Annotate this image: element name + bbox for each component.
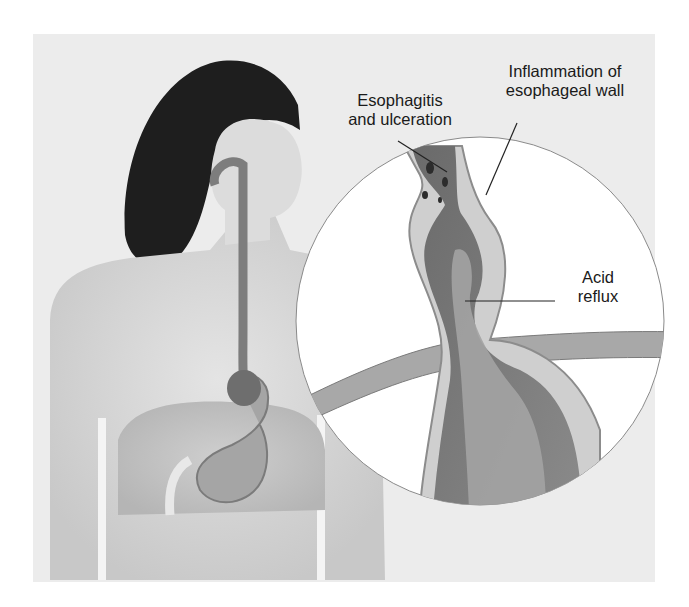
face-shape bbox=[211, 119, 302, 245]
label-inflammation: Inflammation of esophageal wall bbox=[485, 62, 645, 100]
label-line: esophageal wall bbox=[485, 81, 645, 100]
label-line: Inflammation of bbox=[485, 62, 645, 81]
label-line: Esophagitis bbox=[330, 91, 470, 110]
label-acid-reflux: Acid reflux bbox=[568, 268, 628, 306]
label-line: reflux bbox=[568, 287, 628, 306]
label-line: and ulceration bbox=[330, 110, 470, 129]
label-line: Acid bbox=[568, 268, 628, 287]
label-esophagitis: Esophagitis and ulceration bbox=[330, 91, 470, 129]
